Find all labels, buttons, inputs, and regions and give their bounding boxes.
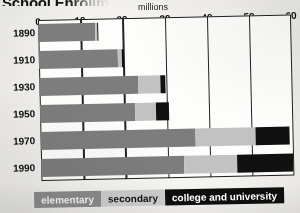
bar-segment-college (237, 153, 294, 172)
bar-segment-college (122, 49, 124, 67)
bar-segment-college (97, 23, 98, 41)
bar-segment-secondary (195, 127, 256, 146)
bar-segment-elementary (38, 23, 95, 42)
bar-segment-elementary (39, 76, 138, 96)
legend: elementary secondary college and univers… (34, 187, 284, 208)
legend-label-elementary: elementary (41, 193, 94, 205)
bar-segment-secondary (135, 102, 156, 120)
legend-label-secondary: secondary (108, 192, 158, 204)
units-label: millions (138, 2, 168, 12)
bar-segment-college (161, 75, 166, 93)
bar-segment-elementary (40, 128, 195, 149)
bar-segment-college (156, 102, 169, 120)
y-axis-tick-1930: 1930 (13, 81, 36, 93)
legend-item-secondary: secondary (101, 189, 165, 206)
y-axis-tick-1990: 1990 (13, 162, 36, 174)
bar-segment-elementary (40, 103, 136, 123)
bar-segment-secondary (138, 75, 161, 93)
legend-label-college: college and university (172, 190, 277, 203)
bar-segment-college (256, 126, 290, 145)
plot-area (38, 14, 294, 180)
y-axis-tick-labels: 189019101930195019701990 (0, 0, 35, 213)
legend-item-elementary: elementary (34, 191, 101, 208)
y-axis-tick-1950: 1950 (13, 108, 36, 120)
y-axis-tick-1910: 1910 (13, 54, 36, 66)
bar-segment-elementary (41, 155, 185, 176)
y-axis-tick-1890: 1890 (13, 27, 36, 39)
bar-segment-secondary (184, 154, 237, 173)
legend-item-college: college and university (165, 187, 284, 205)
chart-page: School Enrollment millions 0102030405060… (0, 0, 300, 213)
y-axis-tick-1970: 1970 (13, 135, 36, 147)
bar-segment-elementary (39, 50, 119, 70)
